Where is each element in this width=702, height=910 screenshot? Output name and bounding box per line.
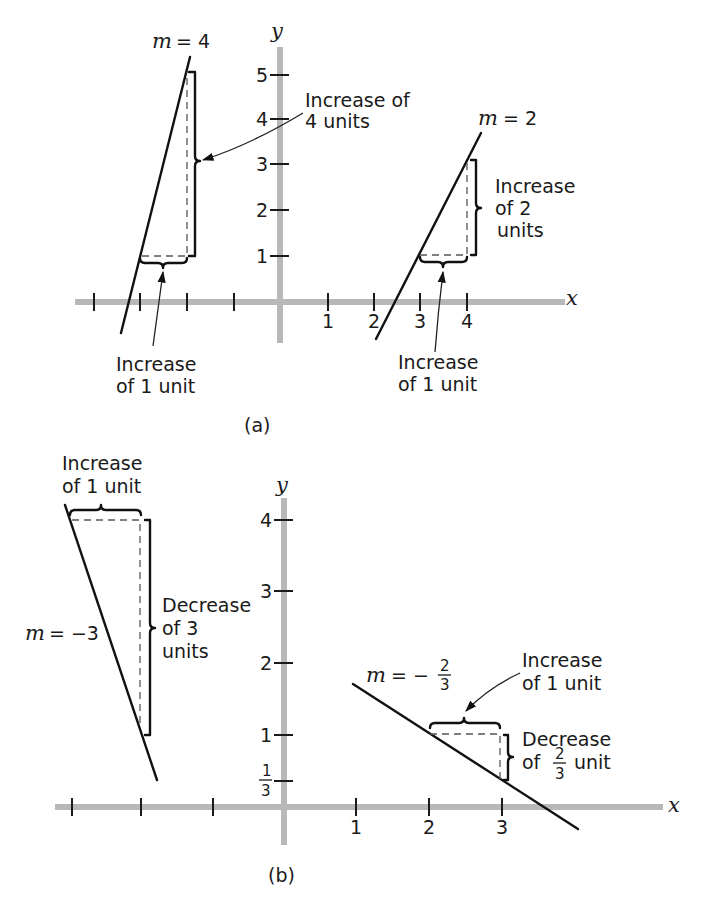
line-slope-neg2-3: m= − 2 3 Increase of 1 unit Decrease of …	[353, 649, 611, 829]
run-label-line1: Increase	[398, 351, 478, 373]
fall-brace	[504, 735, 513, 780]
run-label-line2: of 1 unit	[62, 475, 141, 497]
fall-fraction-num: 2	[555, 745, 565, 763]
x-tick-label: 1	[350, 816, 362, 838]
callout-arrow	[153, 272, 163, 346]
line-slope-neg3: m= −3 Increase of 1 unit Decrease of 3 u…	[25, 452, 251, 780]
x-tick-label: 2	[423, 816, 435, 838]
y-axis-label: y	[275, 473, 289, 497]
y-axis-label: y	[270, 19, 284, 43]
run-brace	[430, 718, 500, 728]
fall-label-line2: of 3	[162, 617, 198, 639]
rise-label-line2: of 2	[495, 197, 531, 219]
panel-a: x y 1 2 3 4 1 2 3	[75, 19, 578, 436]
panel-a-caption: (a)	[244, 414, 270, 436]
fall-brace	[145, 520, 155, 735]
callout-arrow	[435, 272, 443, 352]
fall-label-line1: Decrease	[522, 728, 611, 750]
rise-label-line1: Increase of	[305, 89, 411, 111]
y-tick-fraction-den: 3	[261, 782, 271, 800]
y-tick-fraction-num: 1	[262, 762, 272, 780]
y-tick-label: 3	[260, 580, 272, 602]
slope-label-neg2-3: m= −	[366, 663, 429, 687]
run-brace	[140, 258, 187, 268]
run-label-line1: Increase	[116, 353, 196, 375]
panel-b-caption: (b)	[268, 864, 295, 886]
y-tick-label: 3	[256, 153, 268, 175]
rise-brace	[471, 160, 481, 255]
y-tick-label: 2	[256, 199, 268, 221]
y-tick-label: 4	[256, 108, 268, 130]
x-axis-label: x	[566, 286, 578, 310]
rise-label-line2: 4 units	[305, 110, 370, 132]
callout-arrow	[203, 113, 303, 160]
x-tick-label: 3	[414, 310, 426, 332]
fall-fraction-den: 3	[555, 765, 565, 783]
fall-label-line3: units	[162, 640, 209, 662]
line-m2	[376, 133, 481, 339]
y-ticks: 1 2 3 4 5	[256, 64, 289, 267]
panel-b: x y 1 2 3 1 3 1 2 3 4	[25, 452, 680, 886]
run-label-line2: of 1 unit	[522, 672, 601, 694]
line-slope-2: m= 2 Increase of 2 units Increase of 1 u…	[376, 106, 575, 395]
x-tick-label: 4	[461, 310, 473, 332]
slope-label-neg3: m= −3	[25, 621, 99, 645]
run-brace	[420, 257, 467, 267]
rise-brace	[189, 72, 200, 256]
slope-fraction-num: 2	[440, 657, 450, 675]
x-tick-label: 2	[368, 310, 380, 332]
slope-label-m2: m= 2	[478, 106, 537, 130]
fall-label-line1: Decrease	[162, 594, 251, 616]
y-tick-label: 1	[256, 245, 268, 267]
y-tick-label: 5	[256, 64, 268, 86]
callout-arrow	[466, 673, 520, 711]
run-label-line1: Increase	[522, 649, 602, 671]
slope-fraction-den: 3	[440, 676, 450, 694]
run-brace	[70, 505, 141, 515]
fall-label-suffix: unit	[574, 751, 611, 773]
slope-label-m4: m= 4	[152, 29, 210, 53]
x-tick-label: 1	[322, 310, 334, 332]
y-tick-label: 2	[260, 652, 272, 674]
slope-diagram: x y 1 2 3 4 1 2 3	[0, 0, 702, 910]
x-tick-label: 3	[496, 816, 508, 838]
run-label-line2: of 1 unit	[398, 373, 477, 395]
line-m4	[121, 57, 190, 333]
rise-label-line3: units	[497, 219, 544, 241]
x-axis-label: x	[668, 793, 680, 817]
y-tick-label: 1	[260, 724, 272, 746]
y-ticks: 1 3 1 2 3 4	[259, 509, 293, 800]
run-label-line2: of 1 unit	[116, 375, 195, 397]
run-label-line1: Increase	[62, 452, 142, 474]
y-tick-label: 4	[260, 509, 272, 531]
fall-label-prefix: of	[522, 751, 542, 773]
rise-label-line1: Increase	[495, 175, 575, 197]
